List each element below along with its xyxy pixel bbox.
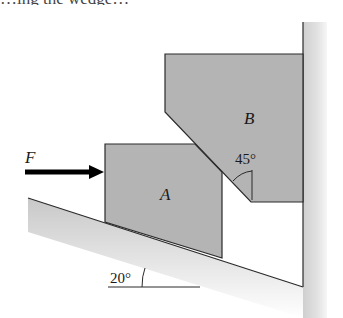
- force-label: F: [24, 148, 36, 167]
- block-a-label: A: [159, 185, 171, 204]
- wedge-diagram: B A 45° F 20°: [0, 0, 343, 318]
- angle-arc-20: [142, 268, 145, 287]
- wall-shading: [303, 22, 327, 318]
- wall: [303, 22, 327, 318]
- angle-20-label: 20°: [110, 270, 131, 286]
- block-b-label: B: [244, 109, 255, 128]
- angle-45-label: 45°: [235, 151, 256, 167]
- arrow-head-icon: [89, 165, 104, 179]
- force-f: F: [24, 148, 104, 179]
